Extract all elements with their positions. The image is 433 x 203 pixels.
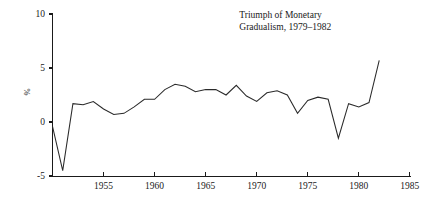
y-tick-label: -5 bbox=[37, 171, 45, 181]
line-chart-plot: -50510 1955196019651970197519801985 % Tr… bbox=[0, 0, 433, 203]
chart-annotation-group: Triumph of MonetaryGradualism, 1979–1982 bbox=[239, 10, 331, 32]
x-axis-ticks bbox=[104, 172, 410, 177]
x-tick-label: 1985 bbox=[400, 181, 419, 191]
x-tick-label: 1970 bbox=[247, 181, 266, 191]
y-axis-title: % bbox=[22, 88, 32, 95]
triumph-annotation-line-1: Triumph of Monetary bbox=[239, 10, 322, 20]
x-tick-label: 1965 bbox=[196, 181, 215, 191]
y-axis-ticks bbox=[49, 14, 53, 176]
chart-container: -50510 1955196019651970197519801985 % Tr… bbox=[0, 0, 433, 203]
x-axis-tick-labels: 1955196019651970197519801985 bbox=[94, 181, 420, 191]
data-series-line bbox=[53, 60, 380, 170]
y-tick-label: 0 bbox=[40, 117, 45, 127]
x-tick-label: 1980 bbox=[349, 181, 368, 191]
y-tick-label: 5 bbox=[40, 63, 45, 73]
x-tick-label: 1975 bbox=[298, 181, 317, 191]
x-tick-label: 1960 bbox=[145, 181, 164, 191]
y-tick-label: 10 bbox=[36, 9, 46, 19]
y-axis-tick-labels: -50510 bbox=[36, 9, 46, 181]
triumph-annotation-line-2: Gradualism, 1979–1982 bbox=[239, 22, 331, 32]
x-tick-label: 1955 bbox=[94, 181, 113, 191]
